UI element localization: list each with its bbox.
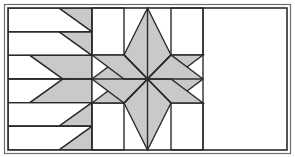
corner-square-bottom-left <box>92 103 124 150</box>
side-row-left-3 <box>8 79 92 103</box>
corner-square-bottom-right <box>171 103 203 150</box>
side-row-left-5 <box>8 126 92 150</box>
side-row-left-4 <box>8 103 92 127</box>
quilt-canvas: Geometric quilt block: a gray eight-poin… <box>0 0 295 157</box>
left-side-panel <box>8 8 92 150</box>
side-row-left-1 <box>8 32 92 56</box>
side-row-left-2 <box>8 55 92 79</box>
side-row-left-0 <box>8 8 92 32</box>
corner-square-top-right <box>171 8 203 55</box>
corner-square-top-left <box>92 8 124 55</box>
center-star-block <box>92 8 203 150</box>
quilt-block-figure: Geometric quilt block: a gray eight-poin… <box>0 0 295 157</box>
